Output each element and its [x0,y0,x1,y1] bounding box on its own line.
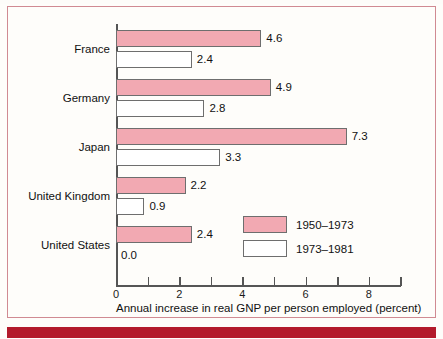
figure-page: 02468 4.62.44.92.87.33.32.20.92.40.0 Fra… [0,0,443,339]
bar-france-series-1 [116,30,261,47]
bar-japan-series-2 [116,149,220,166]
bar-france-series-2 [116,51,192,68]
bar-united-kingdom-series-2 [116,198,144,215]
bar-value-japan-series-2: 3.3 [225,151,241,163]
bar-value-united-kingdom-series-2: 0.9 [149,200,165,212]
x-tick-0 [116,277,117,286]
bar-value-united-states-series-2: 0.0 [121,249,137,261]
x-tick-label-2: 2 [176,288,182,300]
category-label-germany: Germany [63,92,110,104]
x-tick-2 [179,277,180,286]
x-tick-label-0: 0 [113,288,119,300]
bar-germany-series-1 [116,79,271,96]
bar-value-france-series-1: 4.6 [266,32,282,44]
legend-swatch-1950-1973 [243,216,287,233]
bar-value-united-states-series-1: 2.4 [197,228,213,240]
bar-value-germany-series-1: 4.9 [276,81,292,93]
x-tick-3 [211,277,212,286]
legend-item-series-1: 1950–1973 [243,216,354,233]
bar-value-germany-series-2: 2.8 [209,102,225,114]
bar-united-kingdom-series-1 [116,177,186,194]
x-tick-label-6: 6 [303,288,309,300]
category-label-united-states: United States [41,239,110,251]
legend-label-1950-1973: 1950–1973 [296,219,354,231]
x-tick-9 [400,277,401,286]
category-label-france: France [74,43,110,55]
category-label-united-kingdom: United Kingdom [28,190,110,202]
x-tick-8 [369,277,370,286]
x-tick-5 [274,277,275,286]
bar-chart: 02468 4.62.44.92.87.33.32.20.92.40.0 Fra… [0,0,443,339]
category-label-japan: Japan [79,141,110,153]
x-tick-label-4: 4 [239,288,245,300]
bar-japan-series-1 [116,128,347,145]
x-tick-7 [337,277,338,286]
x-tick-6 [306,277,307,286]
bar-value-france-series-2: 2.4 [197,53,213,65]
x-tick-label-8: 8 [366,288,372,300]
bar-value-united-kingdom-series-1: 2.2 [191,179,207,191]
x-axis-line [116,285,401,287]
x-tick-1 [148,277,149,286]
bar-germany-series-2 [116,100,204,117]
bar-united-states-series-1 [116,226,192,243]
x-axis-label: Annual increase in real GNP per person e… [116,302,401,314]
legend-label-1973-1981: 1973–1981 [296,243,354,255]
bar-value-japan-series-1: 7.3 [352,130,368,142]
legend-item-series-2: 1973–1981 [243,240,354,257]
x-tick-4 [242,277,243,286]
chart-legend: 1950–1973 1973–1981 [243,216,354,264]
legend-swatch-1973-1981 [243,240,287,257]
